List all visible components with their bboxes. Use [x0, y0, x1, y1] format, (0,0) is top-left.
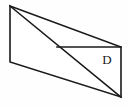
region-label-d: D — [102, 52, 111, 67]
figure-canvas: D — [0, 0, 129, 107]
geometry-figure: D — [0, 0, 129, 107]
